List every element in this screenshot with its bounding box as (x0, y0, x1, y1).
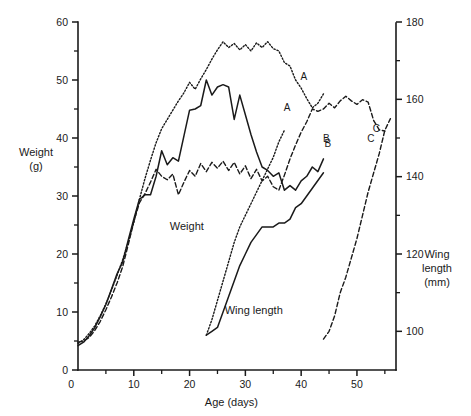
curves-layer (78, 42, 390, 346)
x-axis-tick-label: 20 (184, 378, 196, 390)
y-axis-title: Weight (19, 146, 53, 158)
y2-axis-title: Wing (424, 248, 449, 260)
y-axis-tick-label: 60 (56, 16, 68, 28)
x-axis-tick-label: 40 (295, 378, 307, 390)
series-label-wing-length-B: B (323, 133, 330, 144)
group-label-weight: Weight (170, 220, 204, 232)
y2-axis-title: length (422, 262, 452, 274)
series-line-weight-A (78, 42, 323, 344)
series-label-wing-length-A: A (284, 102, 291, 113)
y2-axis-tick-label: 140 (406, 170, 424, 182)
y-axis-tick-label: 50 (56, 74, 68, 86)
y2-axis-tick-label: 160 (406, 93, 424, 105)
series-line-wing-length-C (323, 119, 390, 339)
y-axis-tick-label: 10 (56, 306, 68, 318)
y2-axis-tick-label: 180 (406, 16, 424, 28)
growth-curves-figure: 010203040506001020304050100120140160180 … (0, 0, 471, 416)
y-axis-title: (g) (29, 160, 42, 172)
y2-axis-tick-label: 100 (406, 325, 424, 337)
y2-axis-title: (mm) (424, 276, 450, 288)
x-axis-tick-label: 0 (68, 378, 74, 390)
y-axis-tick-label: 40 (56, 132, 68, 144)
x-axis-tick-label: 10 (128, 378, 140, 390)
y-axis-tick-label: 0 (62, 364, 68, 376)
series-label-wing-length-C: C (367, 133, 374, 144)
y2-axis-tick-label: 120 (406, 248, 424, 260)
x-axis-title: Age (days) (205, 396, 258, 408)
y-axis-tick-label: 20 (56, 248, 68, 260)
y-axis-tick-label: 30 (56, 190, 68, 202)
series-label-weight-A: A (301, 71, 308, 82)
axes-layer: 010203040506001020304050100120140160180 (56, 16, 423, 390)
x-axis-tick-label: 30 (240, 378, 252, 390)
x-axis-tick-label: 50 (351, 378, 363, 390)
group-label-wing-length: Wing length (225, 304, 283, 316)
series-line-weight-B (78, 80, 323, 346)
